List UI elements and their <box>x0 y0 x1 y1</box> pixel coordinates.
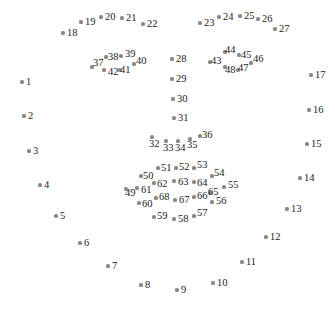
landmark-dot <box>54 214 57 217</box>
landmark-label: 21 <box>126 13 137 24</box>
landmark-label: 4 <box>44 180 49 191</box>
landmark-label: 20 <box>105 12 116 23</box>
landmark-label: 47 <box>238 63 249 74</box>
landmark-label: 6 <box>84 238 89 249</box>
landmark-dot <box>139 283 142 286</box>
landmark-label: 24 <box>223 12 234 23</box>
landmark-label: 14 <box>304 173 315 184</box>
landmark-label: 25 <box>244 11 255 22</box>
landmark-dot <box>273 27 276 30</box>
landmark-label: 5 <box>60 211 65 222</box>
landmark-label: 11 <box>246 257 256 268</box>
landmark-label: 10 <box>217 278 228 289</box>
landmark-label: 38 <box>108 52 119 63</box>
landmark-label: 66 <box>197 191 208 202</box>
landmark-dot <box>211 281 214 284</box>
landmark-label: 33 <box>163 143 174 154</box>
landmark-label: 43 <box>211 56 222 67</box>
landmark-label: 3 <box>33 146 38 157</box>
landmark-label: 2 <box>28 111 33 122</box>
landmark-dot <box>152 215 155 218</box>
landmark-label: 45 <box>241 50 252 61</box>
landmark-label: 37 <box>93 58 104 69</box>
landmark-label: 36 <box>202 130 213 141</box>
landmark-dot <box>198 21 201 24</box>
landmark-label: 23 <box>204 18 215 29</box>
landmark-label: 61 <box>141 185 152 196</box>
landmark-label: 9 <box>181 285 186 296</box>
landmark-label: 27 <box>279 24 290 35</box>
landmark-label: 17 <box>315 70 326 81</box>
landmark-label: 16 <box>313 105 324 116</box>
landmark-dot <box>119 54 122 57</box>
landmark-dot <box>78 241 81 244</box>
landmark-label: 56 <box>216 196 227 207</box>
landmark-label: 34 <box>175 143 186 154</box>
landmark-label: 68 <box>159 192 170 203</box>
landmark-dot <box>240 260 243 263</box>
landmark-dot <box>192 180 195 183</box>
landmark-label: 55 <box>228 180 239 191</box>
landmark-label: 64 <box>197 178 208 189</box>
landmark-dot <box>285 207 288 210</box>
landmark-label: 1 <box>26 77 31 88</box>
landmark-dot <box>173 198 176 201</box>
landmark-label: 67 <box>179 195 190 206</box>
landmark-label: 48 <box>225 65 236 76</box>
landmark-dot <box>298 176 301 179</box>
landmark-dot <box>172 116 175 119</box>
landmark-label: 31 <box>178 113 189 124</box>
landmark-label: 62 <box>157 179 168 190</box>
landmark-label: 46 <box>253 54 264 65</box>
landmark-dot <box>171 97 174 100</box>
landmark-dot <box>222 185 225 188</box>
landmark-label: 49 <box>125 188 136 199</box>
landmark-label: 29 <box>176 74 187 85</box>
landmark-dot <box>38 183 41 186</box>
landmark-label: 65 <box>208 187 219 198</box>
landmark-label: 18 <box>67 28 78 39</box>
landmark-dot <box>99 15 102 18</box>
landmark-dot <box>170 77 173 80</box>
landmark-label: 44 <box>225 45 236 56</box>
landmark-label: 32 <box>149 139 160 150</box>
landmark-label: 52 <box>179 162 190 173</box>
landmark-dot <box>309 73 312 76</box>
landmark-label: 42 <box>108 67 119 78</box>
landmark-label: 41 <box>120 65 131 76</box>
landmark-dot <box>22 114 25 117</box>
landmark-dot <box>192 214 195 217</box>
landmark-dot <box>152 181 155 184</box>
landmark-dot <box>238 14 241 17</box>
landmark-label: 50 <box>143 171 154 182</box>
landmark-label: 63 <box>178 177 189 188</box>
landmark-dot <box>210 200 213 203</box>
landmark-label: 54 <box>214 168 225 179</box>
landmark-dot <box>217 15 220 18</box>
landmark-label: 8 <box>145 280 150 291</box>
landmark-dot <box>192 195 195 198</box>
landmark-label: 26 <box>262 14 273 25</box>
landmark-dot <box>172 217 175 220</box>
landmark-label: 57 <box>197 208 208 219</box>
landmark-dot <box>256 17 259 20</box>
landmark-dot <box>172 179 175 182</box>
landmark-dot <box>175 288 178 291</box>
landmark-label: 30 <box>177 94 188 105</box>
landmark-dot <box>135 186 138 189</box>
landmark-label: 59 <box>157 211 168 222</box>
landmark-label: 22 <box>147 19 158 30</box>
landmark-label: 39 <box>125 49 136 60</box>
landmark-dot <box>20 80 23 83</box>
landmark-dot <box>61 31 64 34</box>
landmark-dot <box>307 108 310 111</box>
landmark-label: 51 <box>161 163 172 174</box>
landmark-label: 13 <box>291 204 302 215</box>
landmark-dot <box>106 264 109 267</box>
landmark-label: 60 <box>142 199 153 210</box>
landmark-label: 19 <box>85 17 96 28</box>
landmark-dot <box>170 57 173 60</box>
landmark-dot <box>154 196 157 199</box>
landmark-dot <box>174 166 177 169</box>
landmark-dot <box>120 16 123 19</box>
